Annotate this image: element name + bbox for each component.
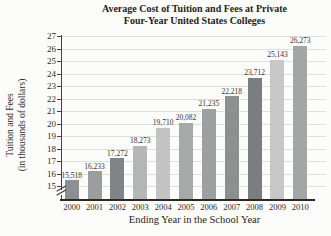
- bar: [270, 60, 284, 199]
- bar-value-label: 26,273: [280, 36, 320, 45]
- bar: [248, 78, 262, 199]
- bar: [133, 146, 147, 199]
- y-tick-label: 22: [38, 94, 56, 105]
- x-axis-title: Ending Year in the School Year: [60, 214, 329, 225]
- y-tick-label: 15: [38, 181, 56, 192]
- bar: [65, 180, 79, 199]
- bar-value-label: 15,518: [52, 171, 92, 180]
- gridline: [62, 186, 326, 187]
- x-axis-line: [60, 199, 315, 201]
- y-tick-label: 27: [38, 31, 56, 42]
- bar: [88, 171, 102, 199]
- plot-area: 1516171819202122232425262715,518200016,2…: [0, 0, 331, 236]
- y-tick-label: 20: [38, 119, 56, 130]
- bar-value-label: 20,082: [166, 113, 206, 122]
- gridline: [62, 111, 326, 112]
- bar: [202, 109, 216, 199]
- gridline: [62, 174, 326, 175]
- bar-value-label: 25,143: [257, 50, 297, 59]
- bar-value-label: 21,235: [189, 99, 229, 108]
- y-tick-label: 26: [38, 44, 56, 55]
- gridline: [62, 136, 326, 137]
- gridline: [62, 86, 326, 87]
- y-tick-label: 19: [38, 131, 56, 142]
- gridline: [62, 124, 326, 125]
- bar-value-label: 23,712: [235, 68, 275, 77]
- bar: [179, 123, 193, 199]
- bar-value-label: 16,233: [75, 162, 115, 171]
- bar: [156, 128, 170, 199]
- tuition-bar-chart-figure: Average Cost of Tuition and Fees at Priv…: [0, 0, 331, 236]
- y-tick-label: 24: [38, 69, 56, 80]
- gridline: [62, 61, 326, 62]
- bar: [110, 158, 124, 199]
- y-tick-label: 18: [38, 144, 56, 155]
- bar-value-label: 22,218: [212, 87, 252, 96]
- y-tick-label: 23: [38, 81, 56, 92]
- bar-value-label: 18,273: [120, 136, 160, 145]
- y-tick-label: 21: [38, 106, 56, 117]
- bar: [225, 96, 239, 199]
- gridline: [62, 74, 326, 75]
- y-tick-label: 25: [38, 56, 56, 67]
- bar-value-label: 17,272: [97, 149, 137, 158]
- x-tick-label: 2010: [286, 202, 314, 212]
- y-tick-label: 17: [38, 156, 56, 167]
- bar: [293, 46, 307, 199]
